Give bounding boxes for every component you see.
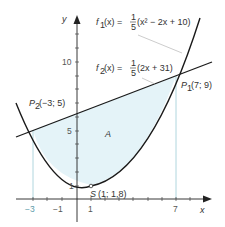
x-axis-arrow-icon: [203, 196, 212, 203]
area-label: A: [104, 129, 111, 139]
svg-text:(7; 9): (7; 9): [191, 80, 212, 90]
x-tick-1: 1: [88, 204, 93, 214]
svg-text:S: S: [90, 189, 96, 199]
svg-text:5: 5: [131, 22, 136, 32]
svg-text:(x) =: (x) =: [104, 63, 122, 73]
y-tick-1: 1: [69, 181, 74, 191]
f2-label: f 2 (x) = 1 5 (2x + 31): [96, 58, 173, 78]
x-tick-minus1: −1: [53, 204, 63, 214]
svg-text:(x² − 2x + 10): (x² − 2x + 10): [137, 17, 191, 27]
y-axis-arrow-icon: [74, 15, 81, 24]
svg-text:5: 5: [131, 68, 136, 78]
vertex-label: S (1; 1,8): [90, 189, 127, 199]
p1-label: P 1 (7; 9): [181, 80, 212, 93]
x-tick-7: 7: [173, 204, 178, 214]
y-tick-5: 5: [67, 126, 72, 136]
p2-label: P 2 (−3; 5): [29, 98, 65, 111]
svg-text:(x) =: (x) =: [104, 17, 122, 27]
svg-text:1: 1: [131, 12, 136, 22]
y-axis-label: y: [61, 14, 67, 24]
svg-text:(−3; 5): (−3; 5): [39, 98, 65, 108]
f1-label: f 1 (x) = 1 5 (x² − 2x + 10): [96, 12, 191, 32]
vertex-point: [89, 184, 93, 188]
y-tick-10: 10: [62, 57, 72, 67]
x-axis-label: x: [199, 205, 205, 215]
leader-f1: [138, 35, 182, 53]
svg-text:(2x + 31): (2x + 31): [137, 63, 173, 73]
leader-f2: [142, 78, 155, 84]
svg-text:1: 1: [131, 58, 136, 68]
svg-text:(1; 1,8): (1; 1,8): [98, 189, 127, 199]
diagram-canvas: y x −3 −1 1 7 10 5 1 f 1 (x) = 1 5 (x² −…: [0, 0, 225, 227]
x-tick-minus3: −3: [25, 204, 35, 214]
